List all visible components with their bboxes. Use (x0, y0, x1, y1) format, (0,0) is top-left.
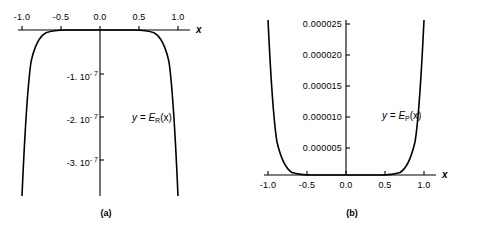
x-tick-label-b-2: 0.0 (339, 180, 352, 190)
x-tick-label-b-3: 0.5 (378, 180, 391, 190)
plot-panel-a: -1.0 -0.5 0.0 0.5 1.0 x -1. 10- 7 -2. 10… (0, 0, 245, 233)
y-tick-label-b-1: 0.000010 (303, 112, 342, 122)
x-tick-label-a-2: 0.0 (93, 12, 106, 22)
curve-annotation-a: y = ER(x) (132, 112, 172, 124)
y-tick-mantissa-a-2: -3. 10 (67, 158, 90, 168)
x-tick-label-a-0: -1.0 (14, 12, 30, 22)
curve-annotation-b: y = EP(x) (382, 110, 421, 122)
panel-caption-b: (b) (346, 208, 358, 218)
plot-a-graphics (0, 0, 245, 233)
y-tick-label-a-0: -1. 10- 7 (67, 70, 98, 82)
figure-container: -1.0 -0.5 0.0 0.5 1.0 x -1. 10- 7 -2. 10… (0, 0, 491, 233)
plot-panel-b: -1.0 -0.5 0.0 0.5 1.0 x 0.000005 0.00001… (246, 0, 491, 233)
y-tick-label-b-2: 0.000015 (303, 81, 342, 91)
x-tick-label-a-1: -0.5 (53, 12, 69, 22)
curve-annotation-a-suffix: (x) (160, 112, 172, 123)
x-tick-label-a-3: 0.5 (132, 12, 145, 22)
panel-caption-a: (a) (101, 208, 112, 218)
x-tick-label-b-1: -0.5 (299, 180, 315, 190)
y-tick-exponent-a-2: - 7 (90, 156, 98, 163)
y-tick-label-b-0: 0.000005 (303, 143, 342, 153)
curve-annotation-b-prefix: y = E (382, 110, 405, 121)
y-tick-label-a-1: -2. 10- 7 (67, 113, 98, 125)
x-axis-label-b: x (442, 169, 448, 180)
plot-b-graphics (246, 0, 491, 233)
y-tick-label-b-3: 0.000020 (303, 50, 342, 60)
x-tick-label-b-0: -1.0 (260, 180, 276, 190)
y-tick-label-b-4: 0.000025 (303, 19, 342, 29)
y-tick-exponent-a-1: - 7 (90, 113, 98, 120)
curve-annotation-b-suffix: (x) (410, 110, 422, 121)
x-tick-label-b-4: 1.0 (417, 180, 430, 190)
y-tick-exponent-a-0: - 7 (90, 70, 98, 77)
curve-annotation-a-prefix: y = E (132, 112, 155, 123)
x-tick-label-a-4: 1.0 (171, 12, 184, 22)
y-tick-mantissa-a-0: -1. 10 (67, 72, 90, 82)
y-tick-label-a-2: -3. 10- 7 (67, 156, 98, 168)
x-axis-label-a: x (196, 24, 202, 35)
y-tick-mantissa-a-1: -2. 10 (67, 115, 90, 125)
